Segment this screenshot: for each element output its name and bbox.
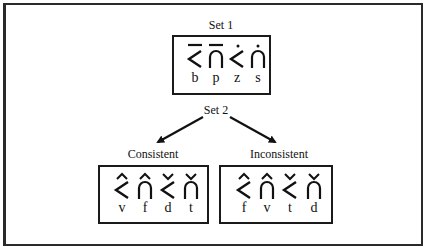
arch-caron-icon: [180, 172, 202, 200]
symbol-letter: d: [302, 201, 326, 215]
symbol-letter: f: [232, 201, 256, 215]
angle-circumflex-icon: [233, 172, 255, 200]
symbol-cell: v: [255, 172, 279, 215]
angle-circumflex-icon: [111, 172, 133, 200]
arrow-to-inconsistent: [230, 117, 275, 142]
symbol-cell: t: [179, 172, 203, 215]
consistent-title: Consistent: [128, 147, 179, 161]
arch-circumflex-icon: [256, 172, 278, 200]
symbol-cell: f: [133, 172, 157, 215]
symbol-letter: v: [255, 201, 279, 215]
symbol-letter: t: [278, 201, 302, 215]
symbol-letter: t: [179, 201, 203, 215]
branch-arrows: [0, 0, 424, 247]
symbol-letter: f: [133, 201, 157, 215]
arch-caron-icon: [303, 172, 325, 200]
symbol-letter: v: [110, 201, 134, 215]
consistent-box: v f d t: [98, 165, 209, 224]
symbol-cell: d: [156, 172, 180, 215]
inconsistent-box: f v t d: [219, 165, 333, 224]
arch-circumflex-icon: [134, 172, 156, 200]
inconsistent-title: Inconsistent: [250, 147, 308, 161]
symbol-cell: f: [232, 172, 256, 215]
angle-caron-icon: [157, 172, 179, 200]
symbol-letter: d: [156, 201, 180, 215]
symbol-cell: d: [302, 172, 326, 215]
arrow-to-consistent: [158, 117, 203, 142]
symbol-cell: t: [278, 172, 302, 215]
symbol-cell: v: [110, 172, 134, 215]
angle-caron-icon: [279, 172, 301, 200]
